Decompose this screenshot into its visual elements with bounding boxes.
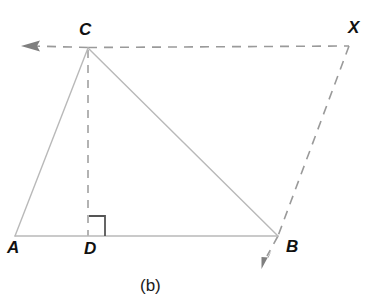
right-angle-marker-icon (89, 216, 105, 236)
horizontal-dashed-ray-group (21, 41, 349, 52)
geometry-figure: A B C D X (b) (0, 0, 371, 305)
segment-CX-dashed (88, 46, 349, 48)
ray-C-leftward-dashed (32, 46, 88, 48)
vertex-label-B: B (286, 238, 298, 255)
vertex-label-D: D (84, 240, 96, 257)
vertex-label-C: C (79, 21, 91, 38)
triangle-ABC (15, 48, 278, 236)
ray-B-downward-dashed (267, 236, 278, 256)
segment-CB (88, 48, 278, 236)
figure-caption: (b) (140, 277, 161, 294)
down-arrowhead-icon (262, 251, 272, 270)
geometry-canvas (0, 0, 371, 305)
vertex-label-A: A (7, 239, 19, 256)
vertex-label-X: X (348, 19, 359, 36)
segment-AC (15, 48, 88, 236)
segment-XB-dashed (278, 46, 349, 236)
